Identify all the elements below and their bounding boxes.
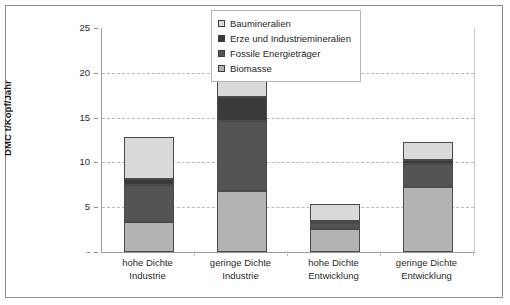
bar-segment[interactable] [217,97,267,121]
y-axis-tick-label: 5 [85,202,90,212]
bar-segment[interactable] [310,229,360,252]
y-axis-tick-mark [94,118,98,119]
y-axis-title: DMC t/Kopf/Jahr [2,0,13,156]
bar-segment[interactable] [217,121,267,191]
x-axis: hohe DichteIndustriegeringe DichteIndust… [101,256,474,301]
legend-item[interactable]: Fossile Energieträger [218,46,351,61]
x-axis-tick-label-line1: geringe Dichte [367,256,487,269]
legend-swatch-icon [218,50,225,57]
y-axis-tick-label: 10 [79,157,90,167]
bar-segment[interactable] [310,204,360,221]
legend-item-label: Baumineralien [230,18,291,29]
bar-segment[interactable] [217,191,267,252]
bar-segment[interactable] [403,187,453,252]
bar-segment[interactable] [124,222,174,252]
legend-item[interactable]: Baumineralien [218,16,351,31]
y-axis-tick-mark [94,162,98,163]
x-axis-tick-mark [287,251,288,256]
legend-item[interactable]: Erze und Industriemineralien [218,31,351,46]
legend-item[interactable]: Biomasse [218,61,351,76]
x-axis-tick-label-line2: Entwicklung [367,269,487,282]
bar-segment[interactable] [403,164,453,186]
x-axis-tick-mark [380,251,381,256]
x-axis-tick-mark [473,251,474,256]
y-axis: DMC t/Kopf/Jahr -510152025 [6,6,98,299]
chart-frame: DMC t/Kopf/Jahr -510152025 hohe DichteIn… [5,5,503,298]
bar-segment[interactable] [403,142,453,160]
y-axis-tick-label: 20 [79,68,90,78]
x-axis-tick-label: geringe DichteEntwicklung [367,256,487,282]
y-axis-tick-mark [94,73,98,74]
legend-swatch-icon [218,65,225,72]
y-axis-tick-label: 25 [79,23,90,33]
bar-segment[interactable] [124,137,174,179]
y-axis-tick-mark [94,207,98,208]
legend-swatch-icon [218,20,225,27]
legend-swatch-icon [218,35,225,42]
legend-item-label: Erze und Industriemineralien [230,33,351,44]
bar-segment[interactable] [310,221,360,224]
y-axis-tick-label: 15 [79,113,90,123]
bar-stack[interactable] [310,204,360,252]
bar-segment[interactable] [403,160,453,164]
legend-item-label: Biomasse [230,63,272,74]
chart-legend: BaumineralienErze und Industriemineralie… [211,10,361,82]
bar-segment[interactable] [124,185,174,223]
y-axis-tick-mark [94,252,98,253]
x-axis-tick-mark [194,251,195,256]
grid-line [102,118,474,119]
bar-stack[interactable] [124,137,174,252]
bar-segment[interactable] [124,179,174,184]
bar-stack[interactable] [403,142,453,252]
y-axis-tick-mark [94,28,98,29]
bar-segment[interactable] [310,223,360,228]
legend-item-label: Fossile Energieträger [230,48,320,59]
